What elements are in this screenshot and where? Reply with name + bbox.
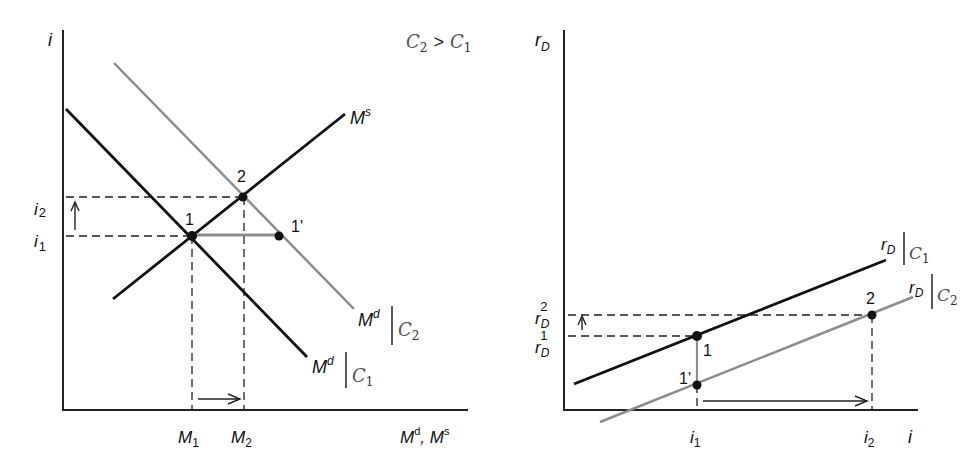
- tick-i2: i2: [34, 200, 46, 220]
- tick-i1: i1: [34, 232, 46, 254]
- point-1-prime-right-label: 1': [679, 370, 691, 387]
- right-arrow-icon: [198, 394, 240, 404]
- tick-rd1: rD1: [535, 328, 550, 360]
- right-panel: 1 1' 2 rD i rD2 rD1 i1 i2 rD C1 rD C2: [535, 30, 958, 450]
- rd-c2-curve: [600, 297, 913, 422]
- svg-text:C2: C2: [398, 319, 419, 343]
- demand-c2-label: Md C2: [358, 306, 419, 345]
- demand-c1-label: Md C1: [312, 352, 373, 389]
- rd-c1-label: rD C1: [881, 232, 930, 266]
- point-1: [187, 231, 197, 241]
- supply-curve: [113, 114, 345, 299]
- money-market-diagram: 1 2 1' i Md, Ms i2 i1 M1 M2 Ms Md C2 Md …: [0, 0, 979, 470]
- point-2-label: 2: [237, 168, 246, 185]
- point-2: [239, 193, 248, 202]
- demand-c2-curve: [114, 63, 354, 309]
- tick-i1-right: i1: [690, 428, 701, 450]
- point-1-right: [692, 331, 702, 341]
- point-1-label: 1: [185, 211, 194, 228]
- svg-text:C2: C2: [937, 285, 958, 308]
- rd-c1-curve: [574, 260, 886, 384]
- supply-curve-label: Ms: [350, 105, 371, 128]
- svg-text:Md: Md: [312, 354, 334, 377]
- demand-c1-curve: [66, 109, 307, 357]
- x-axis-label-md-ms: Md, Ms: [400, 425, 450, 447]
- svg-text:C1: C1: [352, 365, 373, 389]
- point-1-right-label: 1: [703, 342, 712, 359]
- right-x-axis-label: i: [908, 427, 913, 447]
- point-1-prime-label: 1': [291, 218, 303, 235]
- up-arrow-icon: [71, 202, 79, 230]
- svg-text:rD: rD: [881, 235, 896, 257]
- point-2-right-label: 2: [866, 290, 875, 307]
- tick-m1: M1: [178, 428, 199, 450]
- point-1-prime-right: [693, 381, 702, 390]
- right-arrow-icon-right: [703, 396, 867, 406]
- condition-label: C2>C1: [406, 31, 471, 55]
- point-1-prime: [275, 232, 284, 241]
- tick-i2-right: i2: [864, 428, 875, 450]
- svg-text:Md: Md: [358, 307, 380, 330]
- rd-c2-label: rD C2: [909, 274, 958, 309]
- point-2-right: [868, 311, 877, 320]
- tick-rd2: rD2: [535, 299, 550, 331]
- up-arrow-icon-right: [578, 316, 586, 330]
- svg-text:rD: rD: [909, 278, 924, 300]
- svg-text:C1: C1: [909, 243, 930, 266]
- right-y-axis-label: rD: [535, 30, 550, 54]
- svg-text:Md, Ms: Md, Ms: [400, 425, 450, 447]
- left-y-axis-label: i: [48, 30, 53, 50]
- tick-m2: M2: [231, 428, 252, 450]
- left-panel: 1 2 1' i Md, Ms i2 i1 M1 M2 Ms Md C2 Md …: [34, 30, 471, 450]
